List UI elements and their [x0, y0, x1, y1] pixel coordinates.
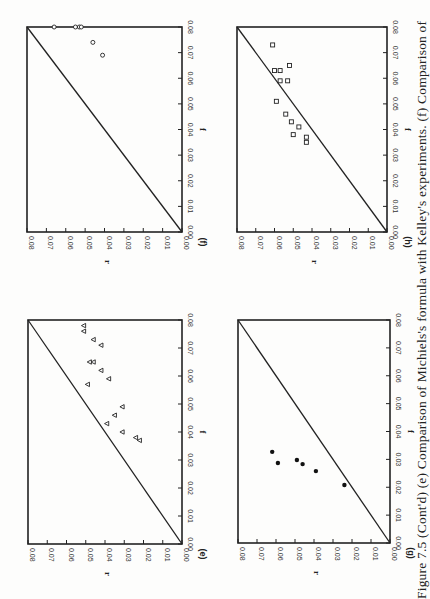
f-tick-label: 0.02 [187, 174, 194, 188]
f-axis-label: f [403, 128, 413, 132]
f-tick-label: 0.01 [395, 508, 402, 522]
reference-line [238, 320, 390, 543]
f-tick-label: 0.04 [187, 425, 194, 439]
r-tick-label: 0.06 [67, 236, 74, 250]
scatter-plot-g: 0.000.010.020.030.040.050.060.070.080.00… [238, 313, 416, 575]
data-point [52, 25, 56, 29]
r-tick-label: 0.01 [369, 236, 376, 250]
r-tick-label: 0.01 [164, 236, 171, 250]
data-point [289, 120, 293, 124]
data-point [304, 135, 308, 139]
reference-line [27, 27, 182, 232]
r-tick-label: 0.08 [239, 547, 246, 561]
data-point [291, 133, 295, 137]
data-point [73, 25, 77, 29]
r-tick-label: 0.04 [315, 547, 322, 561]
r-tick-label: 0.07 [47, 236, 54, 250]
data-point [79, 25, 83, 29]
r-tick-label: 0.00 [388, 236, 395, 250]
f-tick-label: 0.07 [395, 341, 402, 355]
r-tick-label: 0.04 [313, 236, 320, 250]
f-tick-label: 0.03 [187, 453, 194, 467]
r-tick-label: 0.08 [238, 236, 245, 250]
r-tick-label: 0.05 [86, 236, 93, 250]
data-point [295, 458, 299, 462]
r-tick-label: 0.06 [68, 548, 75, 562]
r-axis-label: r [103, 260, 113, 264]
r-tick-label: 0.06 [276, 236, 283, 250]
data-point [288, 63, 292, 67]
data-point [105, 421, 109, 425]
data-point [300, 462, 304, 466]
f-tick-label: 0.03 [187, 148, 194, 162]
r-tick-label: 0.02 [144, 236, 151, 250]
data-point [342, 483, 346, 487]
data-point [91, 337, 95, 341]
scatter-plot-h: 0.000.010.020.030.040.050.060.070.080.00… [237, 20, 413, 264]
scatter-plot-f: 0.000.010.020.030.040.050.060.070.080.00… [27, 20, 208, 264]
reference-line [28, 320, 182, 544]
data-point [101, 53, 105, 57]
panel-label: (e) [198, 549, 208, 560]
r-axis-label: r [103, 572, 113, 576]
data-point [270, 450, 274, 454]
f-tick-label: 0.08 [392, 20, 399, 34]
f-tick-label: 0.04 [395, 425, 402, 439]
r-tick-label: 0.02 [351, 236, 358, 250]
f-tick-label: 0.01 [187, 200, 194, 214]
data-point [106, 377, 110, 381]
r-tick-label: 0.01 [164, 548, 171, 562]
r-tick-label: 0.02 [145, 548, 152, 562]
f-tick-label: 0.07 [187, 46, 194, 60]
scatter-plot-e: 0.000.010.020.030.040.050.060.070.080.00… [28, 313, 208, 576]
data-point [99, 368, 103, 372]
data-point [284, 112, 288, 116]
f-tick-label: 0.04 [187, 123, 194, 137]
scanned-page: 0.000.010.020.030.040.050.060.070.080.00… [0, 0, 430, 599]
data-point [278, 79, 282, 83]
f-axis-label: f [198, 128, 208, 132]
f-tick-label: 0.03 [395, 453, 402, 467]
r-tick-label: 0.04 [106, 548, 113, 562]
f-tick-label: 0.04 [392, 123, 399, 137]
data-point [271, 43, 275, 47]
f-tick-label: 0.06 [392, 71, 399, 85]
data-point [286, 79, 290, 83]
r-tick-label: 0.03 [125, 236, 132, 250]
f-tick-label: 0.01 [392, 200, 399, 214]
f-tick-label: 0.02 [392, 174, 399, 188]
f-tick-label: 0.05 [187, 397, 194, 411]
r-tick-label: 0.00 [183, 548, 190, 562]
figure-plots: 0.000.010.020.030.040.050.060.070.080.00… [0, 0, 430, 599]
f-tick-label: 0.08 [187, 20, 194, 34]
r-tick-label: 0.04 [106, 236, 113, 250]
r-tick-label: 0.05 [87, 548, 94, 562]
reference-line [237, 27, 387, 232]
data-point [112, 413, 116, 417]
data-point [297, 125, 301, 129]
f-tick-label: 0.03 [392, 148, 399, 162]
data-point [273, 69, 277, 73]
data-point [81, 329, 85, 333]
f-tick-label: 0.08 [395, 313, 402, 327]
f-axis-label: f [198, 431, 208, 435]
data-point [91, 40, 95, 44]
f-tick-label: 0.07 [392, 46, 399, 60]
r-tick-label: 0.08 [28, 236, 35, 250]
f-tick-label: 0.05 [392, 97, 399, 111]
panel-label: (f) [198, 238, 208, 247]
r-tick-label: 0.00 [391, 547, 398, 561]
data-point [81, 323, 85, 327]
f-tick-label: 0.06 [187, 71, 194, 85]
data-point [276, 461, 280, 465]
r-tick-label: 0.06 [277, 547, 284, 561]
r-tick-label: 0.03 [332, 236, 339, 250]
r-tick-label: 0.07 [258, 547, 265, 561]
data-point [278, 69, 282, 73]
figure-caption: Figure 7.5 (Cont'd) (e) Comparison of Mi… [414, 0, 430, 599]
r-tick-label: 0.07 [257, 236, 264, 250]
r-tick-label: 0.00 [183, 236, 190, 250]
r-tick-label: 0.08 [29, 548, 36, 562]
data-point [304, 140, 308, 144]
r-tick-label: 0.03 [334, 547, 341, 561]
